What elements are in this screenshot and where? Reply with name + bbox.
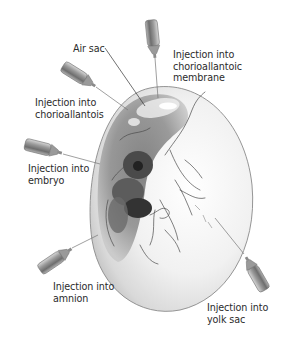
label-line: membrane [173,72,242,84]
label-embryo: Injection into embryo [28,163,89,186]
label-chorioallantoic-membrane: Injection into chorioallantoic membrane [173,49,242,84]
label-line: embryo [28,175,89,187]
label-line: Injection into [53,281,114,293]
air-sac-leader-line [105,48,145,106]
label-air-sac: Air sac [73,43,105,55]
label-line: Injection into [207,302,268,314]
label-yolk-sac: Injection into yolk sac [207,302,268,325]
label-line: chorioallantoic [173,61,242,73]
label-line: Injection into [35,97,104,109]
syringe-embryo [24,138,100,164]
syringe-chorioallantoic-membrane [145,19,161,98]
label-line: amnion [53,293,114,305]
syringe-amnion [37,235,98,275]
egg [90,87,253,312]
label-line: chorioallantois [35,109,104,121]
air-sac-text: Air sac [73,43,105,55]
label-line: yolk sac [207,314,268,326]
label-line: Injection into [28,163,89,175]
label-line: Injection into [173,49,242,61]
label-chorioallantois: Injection into chorioallantois [35,97,104,120]
label-amnion: Injection into amnion [53,281,114,304]
